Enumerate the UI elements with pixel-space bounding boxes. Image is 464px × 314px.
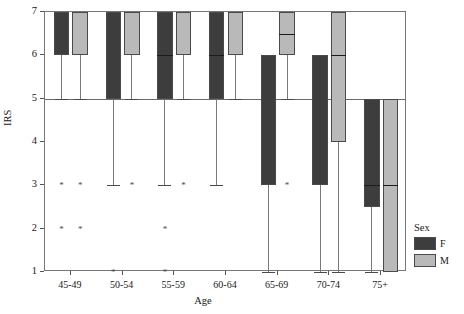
boxplot-figure: IRS 1234567 ********** Sex F M 45-4950-5…	[0, 0, 464, 314]
y-tick-label: 5	[13, 90, 37, 106]
plot-area: **********	[44, 11, 406, 271]
outlier-M-55-59-3: *	[181, 182, 186, 188]
whisker-cap-low-M-50-54	[125, 99, 138, 100]
outlier-M-45-49-2: *	[78, 226, 83, 232]
box-F-75+	[364, 99, 380, 207]
box-M-55-59	[176, 12, 192, 55]
y-tick-label: 1	[13, 263, 37, 279]
x-tick-50-54	[122, 271, 123, 275]
x-tick-70-74	[328, 271, 329, 275]
y-tick-6: 6	[0, 54, 44, 55]
whisker-cap-low-M-45-49	[74, 99, 87, 100]
whisker-cap-low-F-45-49	[55, 99, 68, 100]
median-M-75+	[383, 185, 399, 186]
x-axis-label: Age	[0, 295, 406, 306]
legend-item-f: F	[414, 237, 464, 250]
legend-item-m: M	[414, 254, 464, 267]
y-tick-label: 6	[13, 46, 37, 62]
whisker-cap-low-F-65-69	[262, 272, 275, 273]
outlier-M-50-54-3: *	[130, 182, 135, 188]
whisker-cap-low-M-65-69	[281, 99, 294, 100]
y-tick-3: 3	[0, 184, 44, 185]
median-F-60-64	[209, 55, 225, 56]
box-M-60-64	[228, 12, 244, 55]
outlier-F-45-49-3: *	[59, 182, 64, 188]
legend-swatch-m	[414, 254, 436, 267]
whisker-cap-low-F-75+	[365, 272, 378, 273]
box-M-70-74	[331, 12, 347, 142]
y-axis-label: IRS	[2, 110, 13, 126]
x-tick-label-75+: 75+	[350, 279, 410, 290]
box-F-45-49	[54, 12, 70, 55]
y-tick-2: 2	[0, 228, 44, 229]
legend-swatch-f	[414, 237, 436, 250]
legend-label-m: M	[440, 255, 449, 266]
x-tick-75+	[380, 271, 381, 275]
whisker-cap-low-M-60-64	[229, 99, 242, 100]
median-F-55-59	[157, 55, 173, 56]
whisker-cap-low-F-50-54	[107, 185, 120, 186]
outlier-M-45-49-3: *	[78, 182, 83, 188]
whisker-cap-low-M-70-74	[332, 272, 345, 273]
x-tick-55-59	[173, 271, 174, 275]
median-M-70-74	[331, 55, 347, 56]
y-tick-4: 4	[0, 141, 44, 142]
y-tick-label: 2	[13, 220, 37, 236]
reference-line-5	[45, 99, 405, 100]
y-tick-7: 7	[0, 11, 44, 12]
median-M-65-69	[279, 34, 295, 35]
legend-title: Sex	[414, 222, 464, 233]
outlier-M-65-69-3: *	[285, 182, 290, 188]
box-F-70-74	[312, 55, 328, 185]
y-tick-1: 1	[0, 271, 44, 272]
legend-label-f: F	[440, 238, 446, 249]
box-M-45-49	[72, 12, 88, 55]
box-F-50-54	[106, 12, 122, 99]
outlier-F-50-54-1: *	[111, 269, 116, 275]
y-tick-mark	[40, 271, 44, 272]
y-tick-label: 4	[13, 133, 37, 149]
x-tick-65-69	[277, 271, 278, 275]
whisker-cap-low-F-70-74	[314, 272, 327, 273]
whisker-cap-low-M-55-59	[177, 99, 190, 100]
y-axis: IRS 1234567	[0, 0, 44, 314]
outlier-F-55-59-2: *	[163, 226, 168, 232]
x-tick-45-49	[70, 271, 71, 275]
whisker-cap-low-F-60-64	[210, 185, 223, 186]
y-tick-label: 7	[13, 3, 37, 19]
outlier-F-45-49-2: *	[59, 226, 64, 232]
x-tick-60-64	[225, 271, 226, 275]
legend: Sex F M	[414, 222, 464, 271]
outlier-F-55-59-1: *	[163, 269, 168, 275]
median-F-75+	[364, 185, 380, 186]
y-tick-label: 3	[13, 176, 37, 192]
box-M-50-54	[124, 12, 140, 55]
box-F-65-69	[261, 55, 277, 185]
whisker-cap-low-F-55-59	[158, 185, 171, 186]
y-tick-5: 5	[0, 98, 44, 99]
